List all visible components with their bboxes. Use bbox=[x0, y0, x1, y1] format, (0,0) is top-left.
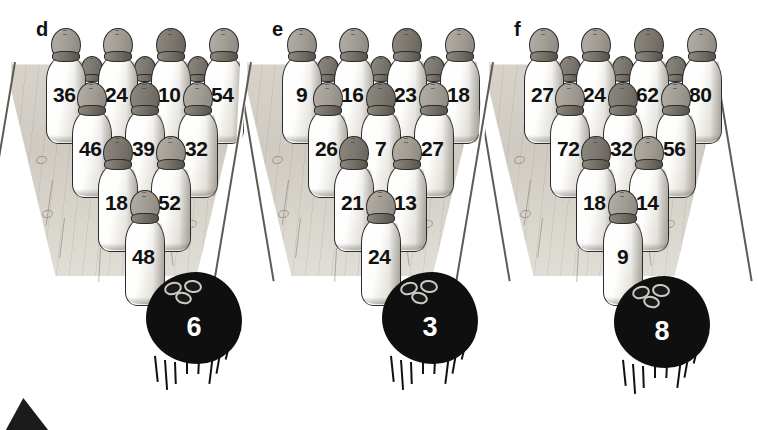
ball-motion-streak bbox=[186, 362, 188, 374]
pin-head-speckle bbox=[593, 138, 597, 143]
pin-head-speckle bbox=[195, 84, 199, 89]
pin-head-speckle bbox=[674, 58, 677, 62]
group-label-f: f bbox=[514, 18, 521, 41]
page-corner-triangle bbox=[4, 396, 50, 430]
pin-head-speckle bbox=[404, 138, 408, 143]
pin-head-speckle bbox=[142, 192, 146, 197]
pin-head-speckle bbox=[378, 192, 382, 197]
pin-head-speckle bbox=[593, 30, 597, 35]
ball-number: 6 bbox=[146, 312, 242, 343]
pin-head-speckle bbox=[168, 30, 172, 35]
group-label-d: d bbox=[36, 18, 48, 41]
pin-head-speckle bbox=[196, 58, 199, 62]
pin-head-speckle bbox=[457, 30, 461, 35]
pin-head-speckle bbox=[378, 84, 382, 89]
pin-shading bbox=[442, 115, 452, 196]
pin-head-speckle bbox=[567, 84, 571, 89]
pin-shading bbox=[179, 169, 189, 250]
pin-head-speckle bbox=[568, 58, 571, 62]
ball-motion-streak bbox=[422, 362, 424, 374]
ball-3: 3 bbox=[382, 272, 478, 364]
pin-number: 18 bbox=[105, 192, 127, 213]
pin-head-speckle bbox=[646, 138, 650, 143]
pin-head-speckle bbox=[379, 58, 382, 62]
ball-number: 8 bbox=[614, 316, 710, 347]
pin-head-speckle bbox=[63, 30, 67, 35]
ball-motion-streak bbox=[654, 366, 656, 378]
pin-shading bbox=[710, 61, 720, 142]
pin-head-speckle bbox=[115, 30, 119, 35]
pin-head-speckle bbox=[404, 30, 408, 35]
pin-head-speckle bbox=[326, 58, 329, 62]
pin-head-speckle bbox=[621, 58, 624, 62]
pin-head-speckle bbox=[646, 30, 650, 35]
group-label-e: e bbox=[272, 18, 283, 41]
pin-head-speckle bbox=[142, 84, 146, 89]
pin-number: 18 bbox=[583, 192, 605, 213]
pin-shading bbox=[657, 169, 667, 250]
pin-number: 9 bbox=[617, 246, 628, 267]
pin-head-speckle bbox=[541, 30, 545, 35]
pin-head-speckle bbox=[325, 84, 329, 89]
pin-shading bbox=[415, 169, 425, 250]
pin-head-speckle bbox=[168, 138, 172, 143]
pin-head-speckle bbox=[432, 58, 435, 62]
pin-number: 9 bbox=[296, 84, 307, 105]
pin-shading bbox=[206, 115, 216, 196]
pin-head-speckle bbox=[620, 84, 624, 89]
worksheet-canvas: 36241054463932185248d916231826727211324e… bbox=[0, 0, 758, 430]
pin-head-speckle bbox=[351, 138, 355, 143]
pin-head-speckle bbox=[620, 192, 624, 197]
pin-number: 24 bbox=[368, 246, 390, 267]
pin-head-speckle bbox=[673, 84, 677, 89]
pin-head-speckle bbox=[221, 30, 225, 35]
pin-head-speckle bbox=[143, 58, 146, 62]
ball-number: 3 bbox=[382, 312, 478, 343]
ball-6: 6 bbox=[146, 272, 242, 364]
pin-number: 48 bbox=[132, 246, 154, 267]
pin-head-speckle bbox=[699, 30, 703, 35]
pin-number: 7 bbox=[375, 138, 386, 159]
pin-head-speckle bbox=[89, 84, 93, 89]
pin-head-speckle bbox=[115, 138, 119, 143]
pin-head-speckle bbox=[90, 58, 93, 62]
pin-head-speckle bbox=[351, 30, 355, 35]
pin-shading bbox=[684, 115, 694, 196]
ball-8: 8 bbox=[614, 276, 710, 368]
pin-head-speckle bbox=[431, 84, 435, 89]
pin-number: 21 bbox=[341, 192, 363, 213]
pin-head-speckle bbox=[299, 30, 303, 35]
